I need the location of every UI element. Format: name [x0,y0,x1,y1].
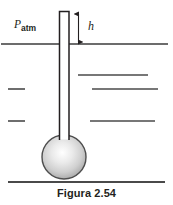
height-label: h [88,20,94,32]
figure-caption: Figura 2.54 [0,188,173,199]
pressure-subscript: atm [21,23,36,33]
tube-body [60,12,70,140]
figure-container: Patm h Figura 2.54 [0,0,173,205]
pressure-symbol: P [14,18,21,30]
bulb-sphere [42,135,86,179]
pressure-label: Patm [14,19,36,33]
